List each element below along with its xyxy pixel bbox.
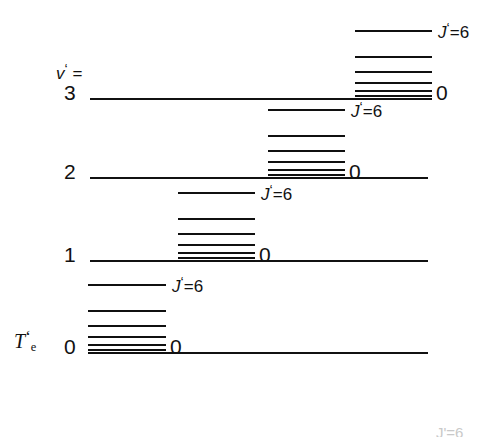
rotational-rung-v0-j1 xyxy=(88,349,166,351)
vibrational-level-0: 00J‘=6 xyxy=(0,0,489,437)
rotational-rung-v0-j2 xyxy=(88,344,166,346)
j-min-label-v0: 0 xyxy=(170,336,182,357)
v-number-0: 0 xyxy=(64,336,76,357)
rotational-rung-v0-j6 xyxy=(88,284,166,286)
energy-level-diagram: v‘ = T‘e 30J‘=620J‘=610J‘=600J‘=6 J'=6 xyxy=(0,0,489,437)
rotational-rung-v0-j0 xyxy=(88,352,166,354)
rotational-rung-v0-j4 xyxy=(88,325,166,327)
clipped-footer-label: J'=6 xyxy=(436,424,488,437)
rotational-rung-v0-j5 xyxy=(88,310,166,312)
j-max-label-v0: J‘=6 xyxy=(172,275,203,295)
rotational-rung-v0-j3 xyxy=(88,336,166,338)
